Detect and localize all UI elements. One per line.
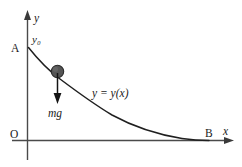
diagram-canvas: y x O A B y₀ y = y(x) mg [0, 0, 242, 167]
point-b-label: B [205, 127, 213, 139]
labels-group: y x O A B y₀ y = y(x) mg [10, 12, 229, 140]
x-axis-arrowhead [224, 137, 234, 144]
initial-height-label: y₀ [31, 33, 41, 45]
y-axis-label: y [33, 12, 40, 25]
point-a-label: A [11, 42, 20, 54]
y-axis-arrowhead [24, 10, 31, 20]
curve-equation-label: y = y(x) [91, 87, 129, 100]
point-mass-highlight [53, 67, 58, 72]
x-axis-label: x [222, 125, 229, 137]
axes-group [12, 10, 234, 160]
gravity-arrowhead [54, 93, 62, 104]
origin-label: O [10, 128, 18, 140]
gravity-force-label: mg [48, 107, 62, 120]
physics-diagram-figure: y x O A B y₀ y = y(x) mg [0, 0, 242, 167]
